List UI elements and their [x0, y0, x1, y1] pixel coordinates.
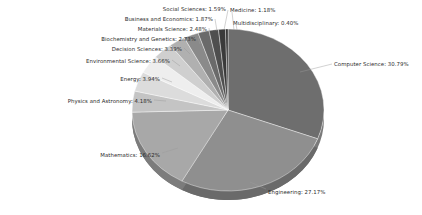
pie-slice-label: Computer Science: 30.79% — [334, 62, 409, 67]
leader-line — [224, 10, 228, 30]
pie-slice-label: Medicine: 1.18% — [230, 8, 276, 13]
pie-slice-group — [132, 29, 324, 191]
pie-slice-label: Multidisciplinary: 0.40% — [233, 21, 298, 26]
pie-slice-label: Engineering: 27.17% — [268, 190, 325, 195]
pie-slice-label: Physics and Astronomy: 4.18% — [68, 99, 152, 104]
pie-slice-label: Biochemistry and Genetics: 2.73% — [101, 37, 196, 42]
pie-slice-label: Mathematics: 16.62% — [100, 153, 160, 158]
pie-slice-label: Materials Science: 2.48% — [138, 27, 207, 32]
pie-chart-canvas — [0, 0, 422, 215]
pie-slice-label: Energy: 3.94% — [120, 77, 160, 82]
leader-line — [215, 19, 217, 31]
pie-slice-label: Business and Economics: 1.87% — [125, 17, 213, 22]
pie-slice-label: Decision Sciences: 3.39% — [112, 47, 182, 52]
pie-chart-figure: Computer Science: 30.79%Engineering: 27.… — [0, 0, 422, 215]
pie-slice-label: Environmental Science: 3.66% — [86, 59, 170, 64]
pie-slice-label: Social Sciences: 1.59% — [163, 7, 226, 12]
